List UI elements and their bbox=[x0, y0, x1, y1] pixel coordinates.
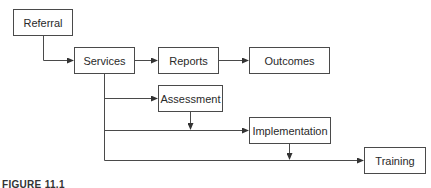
node-outcomes: Outcomes bbox=[249, 47, 330, 74]
node-referral: Referral bbox=[13, 9, 73, 36]
node-implementation: Implementation bbox=[249, 117, 331, 144]
node-training: Training bbox=[364, 147, 426, 174]
node-assessment: Assessment bbox=[158, 85, 223, 112]
node-services: Services bbox=[74, 47, 135, 74]
figure-caption: FIGURE 11.1 bbox=[2, 179, 65, 188]
node-reports: Reports bbox=[158, 47, 219, 74]
edge-referral-services bbox=[44, 35, 74, 61]
